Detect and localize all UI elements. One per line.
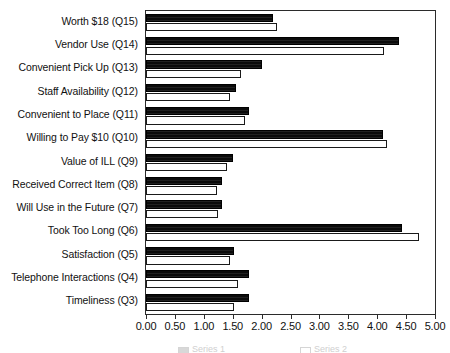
bar-light [146, 70, 241, 78]
bar-dark [146, 270, 249, 278]
category-label: Timeliness (Q3) [0, 295, 138, 306]
x-axis-tick-label: 5.00 [415, 320, 450, 333]
bar-light [146, 303, 234, 311]
bar-dark [146, 154, 233, 162]
x-axis-tick [435, 315, 436, 319]
category-label: Convenient Pick Up (Q13) [0, 62, 138, 73]
bar-light [146, 23, 277, 31]
category-label: Satisfaction (Q5) [0, 248, 138, 259]
x-axis-tick [348, 315, 349, 319]
category-label: Telephone Interactions (Q4) [0, 272, 138, 283]
x-axis-tick [319, 315, 320, 319]
bar-dark [146, 294, 249, 302]
bar-light [146, 210, 218, 218]
bar-dark [146, 107, 249, 115]
legend-swatch [178, 347, 189, 353]
legend-label: Series 1 [192, 345, 225, 353]
category-label: Vendor Use (Q14) [0, 39, 138, 50]
category-label: Received Correct Item (Q8) [0, 179, 138, 190]
bar-light [146, 186, 217, 194]
bar-light [146, 140, 387, 148]
bar-dark [146, 224, 402, 232]
category-label: Willing to Pay $10 (Q10) [0, 132, 138, 143]
bar-dark [146, 200, 222, 208]
category-axis: Worth $18 (Q15)Vendor Use (Q14)Convenien… [0, 10, 142, 315]
x-axis-tick [146, 315, 147, 319]
bar-dark [146, 247, 234, 255]
chart-legend: Series 1Series 2 [0, 345, 442, 353]
category-label: Worth $18 (Q15) [0, 15, 138, 26]
plot-area [145, 10, 436, 315]
bar-dark [146, 37, 399, 45]
legend-swatch [300, 347, 311, 353]
bar-dark [146, 130, 383, 138]
category-label: Took Too Long (Q6) [0, 225, 138, 236]
x-axis-tick [204, 315, 205, 319]
x-axis-tick [175, 315, 176, 319]
bar-dark [146, 14, 273, 22]
category-label: Will Use in the Future (Q7) [0, 202, 138, 213]
x-axis-tick [377, 315, 378, 319]
bar-light [146, 280, 238, 288]
bar-light [146, 163, 227, 171]
legend-label: Series 2 [314, 345, 347, 353]
x-axis-tick [233, 315, 234, 319]
x-axis-tick [406, 315, 407, 319]
category-label: Staff Availability (Q12) [0, 85, 138, 96]
x-axis-tick [262, 315, 263, 319]
bar-light [146, 233, 419, 241]
category-label: Value of ILL (Q9) [0, 155, 138, 166]
bar-dark [146, 60, 262, 68]
bar-light [146, 93, 230, 101]
category-label: Convenient to Place (Q11) [0, 109, 138, 120]
bar-light [146, 116, 245, 124]
x-axis-tick [291, 315, 292, 319]
bar-light [146, 256, 230, 264]
bar-dark [146, 177, 222, 185]
bar-light [146, 47, 384, 55]
bar-dark [146, 84, 236, 92]
